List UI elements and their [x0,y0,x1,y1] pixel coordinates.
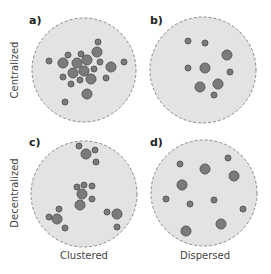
large-node [229,171,239,181]
small-node [202,40,208,46]
row-label-decentralized: Decentralized [9,158,20,227]
panel-a: a) [29,14,136,122]
small-node [78,51,84,57]
small-node [240,206,246,212]
small-node [185,65,191,71]
small-node [121,59,127,65]
small-node [46,58,52,64]
small-node [89,183,95,189]
small-node [65,52,71,58]
small-node [114,224,120,230]
small-node [225,155,231,161]
large-node [68,68,78,78]
small-node [104,209,110,215]
small-node [95,39,101,45]
large-node [72,58,82,68]
small-node [211,92,217,98]
small-node [46,214,52,220]
small-node [91,66,97,72]
small-node [177,161,183,167]
panel-c: c) [29,136,137,247]
large-node [86,74,96,84]
large-node [82,55,92,65]
column-label-clustered: Clustered [60,250,108,261]
small-node [93,159,99,165]
large-node [81,149,91,159]
large-node [213,79,223,89]
large-node [58,58,68,68]
small-node [97,59,103,65]
small-node [76,143,82,149]
small-node [187,201,193,207]
small-node [211,197,217,203]
small-node [62,225,68,231]
small-node [77,77,83,83]
small-node [81,182,87,188]
large-node [195,82,205,92]
large-node [77,189,87,199]
large-node [75,200,85,210]
small-node [103,75,109,81]
small-node [92,147,98,153]
panels-group: a)b)c)d) [29,14,257,247]
panel-b: b) [150,14,256,123]
small-node [227,69,233,75]
panel-d: d) [150,136,257,246]
large-node [52,214,62,224]
large-node [92,47,102,57]
panel-label-b: b) [150,14,163,27]
large-node [200,164,210,174]
large-node [79,66,89,76]
small-node [56,206,62,212]
small-node [163,196,169,202]
large-node [82,89,92,99]
panel-label-d: d) [150,136,163,149]
large-node [216,219,226,229]
panel-label-c: c) [29,136,41,149]
small-node [185,38,191,44]
small-node [74,184,80,190]
large-node [222,50,232,60]
column-label-dispersed: Dispersed [180,250,230,261]
large-node [112,209,122,219]
panel-label-a: a) [29,14,41,27]
small-node [60,74,66,80]
large-node [200,63,210,73]
spatial-distribution-diagram: a)b)c)d) Centralized Decentralized Clust… [0,0,271,274]
large-node [181,226,191,236]
row-label-centralized: Centralized [9,42,20,99]
region-circle [151,140,257,246]
small-node [89,196,95,202]
large-node [106,62,116,72]
small-node [62,99,68,105]
large-node [177,180,187,190]
small-node [68,81,74,87]
